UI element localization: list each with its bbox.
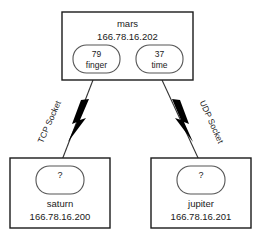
client-port-saturn[interactable]: ? bbox=[36, 166, 84, 194]
connection-label-tcp-group: TCP Socket bbox=[35, 99, 63, 145]
service-port-time[interactable]: 37 time bbox=[136, 45, 183, 73]
service-port-finger[interactable]: 79 finger bbox=[73, 45, 120, 73]
host-box-saturn[interactable]: ? saturn 166.78.16.200 bbox=[10, 158, 110, 228]
host-name-mars: mars bbox=[117, 18, 138, 29]
network-diagram: TCP Socket UDP Socket mars 166.78.16.202… bbox=[0, 0, 262, 242]
service-port-finger-name: finger bbox=[86, 60, 107, 70]
host-name-saturn: saturn bbox=[47, 198, 73, 209]
diagram-canvas: TCP Socket UDP Socket mars 166.78.16.202… bbox=[0, 0, 262, 242]
host-ip-jupiter: 166.78.16.201 bbox=[171, 211, 232, 222]
lightning-bolt-udp-icon bbox=[172, 99, 193, 142]
service-port-finger-number: 79 bbox=[92, 49, 102, 59]
host-name-jupiter: jupiter bbox=[187, 198, 214, 209]
service-port-time-name: time bbox=[151, 60, 167, 70]
connection-label-udp: UDP Socket bbox=[198, 99, 226, 146]
connection-label-udp-group: UDP Socket bbox=[198, 99, 226, 146]
connection-label-tcp: TCP Socket bbox=[35, 99, 63, 145]
service-port-time-number: 37 bbox=[155, 49, 165, 59]
client-port-saturn-label: ? bbox=[57, 170, 62, 180]
host-box-jupiter[interactable]: ? jupiter 166.78.16.201 bbox=[151, 158, 251, 228]
lightning-bolt-tcp-icon bbox=[68, 99, 89, 142]
client-port-jupiter-label: ? bbox=[198, 170, 203, 180]
host-box-mars[interactable]: mars 166.78.16.202 79 finger 37 time bbox=[62, 12, 193, 80]
host-ip-saturn: 166.78.16.200 bbox=[30, 211, 91, 222]
client-port-jupiter[interactable]: ? bbox=[177, 166, 225, 194]
host-ip-mars: 166.78.16.202 bbox=[97, 31, 158, 42]
